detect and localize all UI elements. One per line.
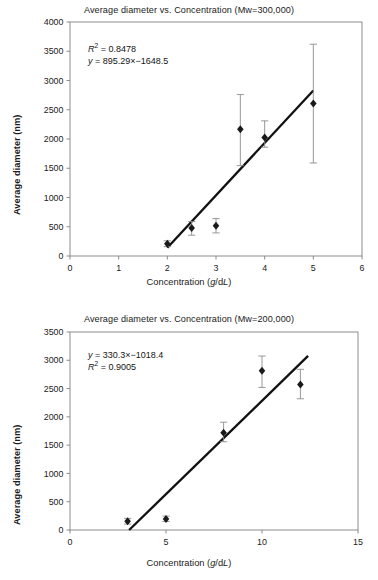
plot-area-top: 050010001500200025003000350040000123456 — [0, 0, 378, 290]
figure-two-scatter-plots: Average diameter vs. Concentration (Mw=3… — [0, 0, 378, 580]
svg-text:1000: 1000 — [44, 193, 64, 203]
annotation-equation-bottom: y = 330.3×−1018.4 — [88, 350, 163, 360]
svg-text:1500: 1500 — [44, 163, 64, 173]
svg-text:10: 10 — [257, 537, 267, 547]
annotation-r-squared-top: R2 = 0.8478 — [88, 44, 136, 54]
svg-text:1500: 1500 — [44, 440, 64, 450]
svg-text:15: 15 — [353, 537, 363, 547]
annotation-bottom: y = 330.3×−1018.4 R2 = 0.9005 — [88, 350, 163, 373]
svg-text:2500: 2500 — [44, 105, 64, 115]
svg-text:4000: 4000 — [44, 17, 64, 27]
annotation-top: R2 = 0.8478 y = 895.29×−1648.5 — [88, 44, 168, 67]
svg-text:500: 500 — [49, 497, 64, 507]
plot-area-bottom: 0500100015002000250030003500051015 — [0, 290, 378, 580]
svg-text:3500: 3500 — [44, 327, 64, 337]
svg-text:1000: 1000 — [44, 469, 64, 479]
chart-panel-mw300000: Average diameter vs. Concentration (Mw=3… — [0, 0, 378, 290]
svg-text:2: 2 — [165, 263, 170, 273]
svg-text:0: 0 — [68, 537, 73, 547]
annotation-equation-top: y = 895.29×−1648.5 — [88, 56, 168, 66]
svg-text:6: 6 — [360, 263, 365, 273]
svg-text:2000: 2000 — [44, 134, 64, 144]
svg-text:0: 0 — [59, 251, 64, 261]
svg-text:2000: 2000 — [44, 412, 64, 422]
svg-text:3000: 3000 — [44, 355, 64, 365]
x-axis-title-top: Concentration (g/dL) — [0, 277, 378, 287]
chart-panel-mw200000: Average diameter vs. Concentration (Mw=2… — [0, 290, 378, 580]
svg-text:2500: 2500 — [44, 384, 64, 394]
svg-text:3500: 3500 — [44, 46, 64, 56]
annotation-r-squared-bottom: R2 = 0.9005 — [88, 362, 136, 372]
svg-text:4: 4 — [262, 263, 267, 273]
svg-text:500: 500 — [49, 222, 64, 232]
svg-text:3000: 3000 — [44, 76, 64, 86]
svg-text:5: 5 — [311, 263, 316, 273]
x-axis-title-bottom: Concentration (g/dL) — [0, 558, 378, 568]
svg-text:1: 1 — [116, 263, 121, 273]
svg-text:5: 5 — [164, 537, 169, 547]
svg-text:0: 0 — [59, 525, 64, 535]
svg-text:0: 0 — [68, 263, 73, 273]
svg-text:3: 3 — [214, 263, 219, 273]
